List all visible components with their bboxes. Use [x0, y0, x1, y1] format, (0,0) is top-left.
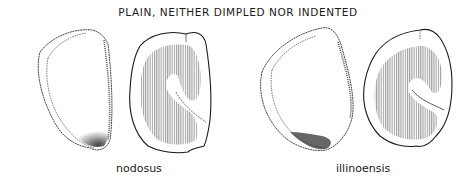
specimen-label-illinoensis: illinoensis — [336, 162, 390, 175]
illinoensis-cross-section — [364, 29, 452, 146]
illinoensis-exterior-seed — [261, 28, 353, 151]
seed-illustrations — [0, 0, 476, 188]
specimen-label-nodosus: nodosus — [116, 162, 162, 175]
nodosus-cross-section — [130, 32, 211, 152]
nodosus-exterior-seed — [38, 30, 112, 150]
